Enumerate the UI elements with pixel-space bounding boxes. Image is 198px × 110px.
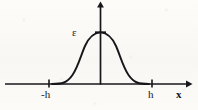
- x-tick-label-pos-h: h: [148, 89, 154, 100]
- y-axis-arrowhead: [97, 2, 104, 8]
- y-axis-label-epsilon: ε: [72, 27, 77, 38]
- x-tick-label-neg-h: -h: [41, 89, 51, 100]
- x-axis-label: x: [176, 89, 182, 100]
- plot-canvas: [0, 0, 198, 110]
- figure-container: ε -h h x: [0, 0, 198, 110]
- x-axis-arrowhead: [186, 81, 193, 88]
